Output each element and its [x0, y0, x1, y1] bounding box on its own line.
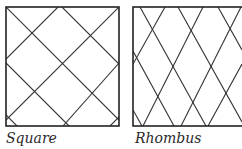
lattice-line — [133, 7, 165, 64]
lattice-line — [133, 51, 174, 126]
rhombus-caption: Rhombus — [135, 130, 201, 146]
lattice-line — [133, 110, 142, 126]
rhombus-lattice-diagram — [0, 0, 242, 130]
lattice-line — [208, 64, 242, 126]
lattice-line — [181, 7, 241, 126]
square-caption: Square — [6, 130, 57, 146]
lattice-line — [143, 7, 203, 126]
